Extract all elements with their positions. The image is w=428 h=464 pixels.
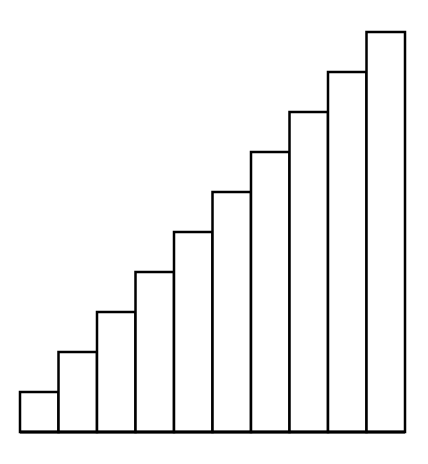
bar-2 [59, 352, 98, 432]
bar-7 [251, 152, 290, 432]
bar-8 [290, 112, 329, 432]
bars-group [20, 32, 405, 432]
bar-5 [174, 232, 213, 432]
bar-chart [0, 0, 428, 464]
bar-9 [328, 72, 367, 432]
bar-6 [213, 192, 252, 432]
bar-3 [97, 312, 136, 432]
bar-10 [367, 32, 406, 432]
bar-4 [136, 272, 175, 432]
bar-1 [20, 392, 59, 432]
